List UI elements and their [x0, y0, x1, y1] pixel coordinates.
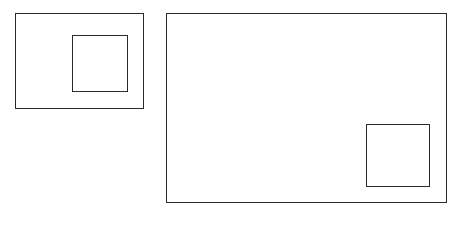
- large-panel-inner-rectangle: [366, 124, 430, 187]
- small-panel-inner-rectangle: [72, 35, 128, 92]
